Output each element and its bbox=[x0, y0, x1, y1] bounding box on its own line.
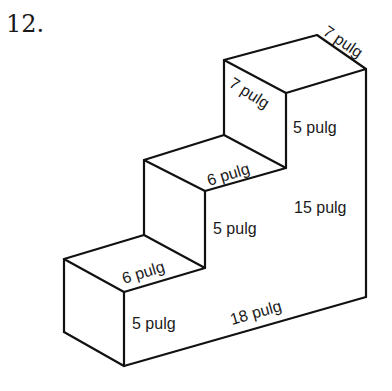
label-top-step-height: 5 pulg bbox=[293, 119, 337, 136]
label-total-height: 15 pulg bbox=[294, 199, 347, 216]
label-middle-step-height: 5 pulg bbox=[213, 220, 257, 237]
staircase-figure: 7 pulg 7 pulg 5 pulg 6 pulg 5 pulg 15 pu… bbox=[0, 0, 392, 391]
label-top-left-depth: 7 pulg bbox=[226, 74, 272, 112]
label-bottom-step-height: 5 pulg bbox=[132, 315, 176, 332]
bottom-left-base bbox=[64, 332, 124, 366]
